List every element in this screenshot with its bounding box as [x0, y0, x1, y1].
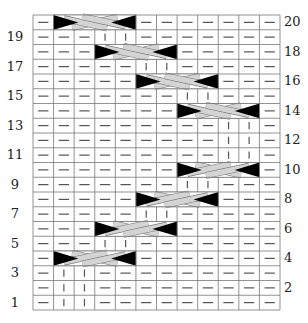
row-label-4: 4	[284, 251, 308, 265]
cable-cross-symbol	[177, 163, 259, 178]
row-label-2: 2	[284, 281, 308, 295]
row-label-17: 17	[2, 60, 28, 74]
row-label-5: 5	[2, 237, 28, 251]
knitting-chart	[0, 0, 308, 323]
row-label-20: 20	[284, 15, 308, 29]
cable-cross-symbol	[54, 251, 136, 266]
row-label-16: 16	[284, 74, 308, 88]
row-label-8: 8	[284, 192, 308, 206]
cable-cross-symbol	[95, 45, 177, 60]
cable-cross-symbol	[177, 104, 259, 119]
row-label-10: 10	[284, 163, 308, 177]
row-label-13: 13	[2, 119, 28, 133]
chart-grid	[0, 0, 308, 323]
row-label-18: 18	[284, 45, 308, 59]
cable-cross-symbol	[136, 192, 218, 207]
row-label-12: 12	[284, 133, 308, 147]
row-label-14: 14	[284, 104, 308, 118]
row-label-15: 15	[2, 89, 28, 103]
row-label-9: 9	[2, 178, 28, 192]
row-label-3: 3	[2, 266, 28, 280]
row-label-1: 1	[2, 296, 28, 310]
cable-cross-symbol	[95, 222, 177, 237]
row-label-11: 11	[2, 148, 28, 162]
cable-cross-symbol	[54, 15, 136, 30]
row-label-7: 7	[2, 207, 28, 221]
row-label-6: 6	[284, 222, 308, 236]
row-label-19: 19	[2, 30, 28, 44]
cable-cross-symbol	[136, 74, 218, 89]
